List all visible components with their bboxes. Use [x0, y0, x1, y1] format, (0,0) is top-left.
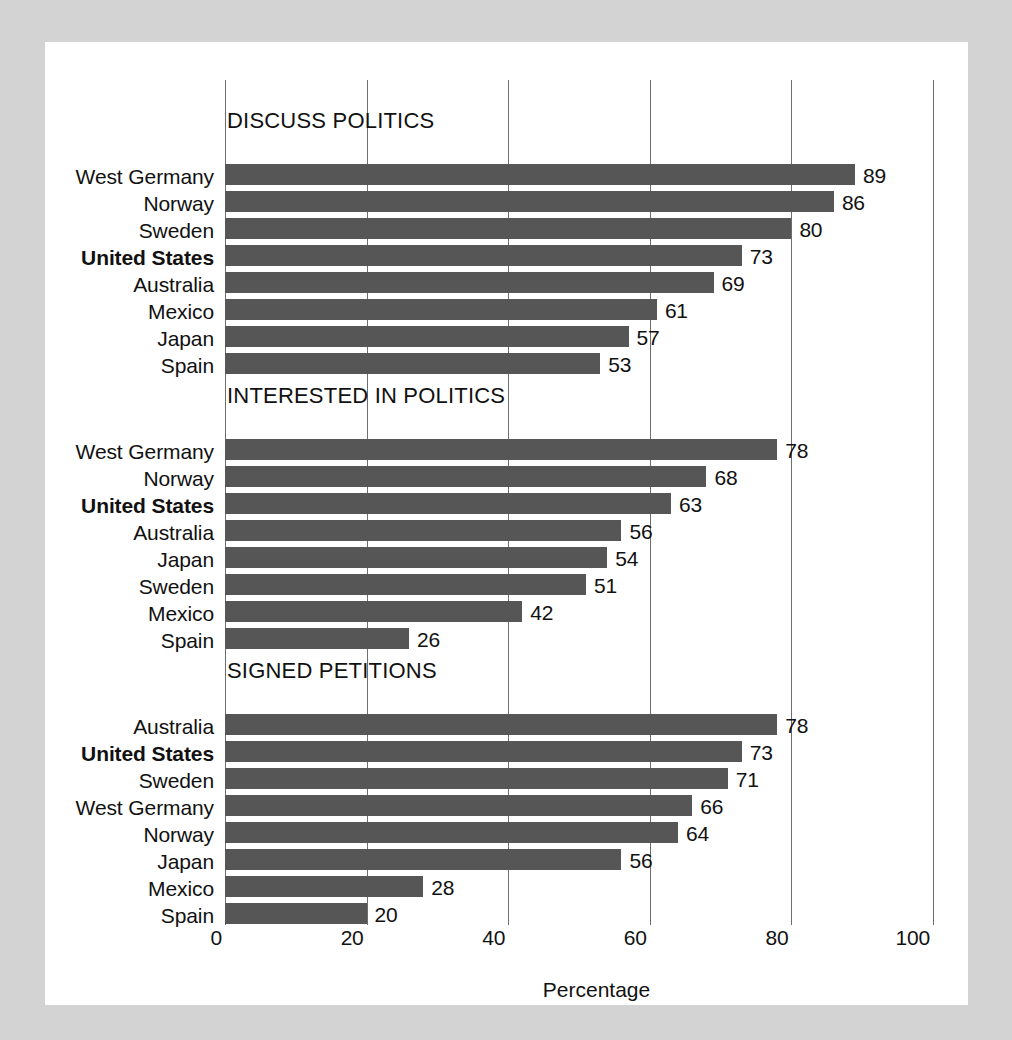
- category-label: West Germany: [45, 796, 214, 820]
- bar-value-label: 73: [750, 245, 773, 269]
- bar-value-label: 68: [714, 466, 737, 490]
- bar-row: Japan57: [45, 325, 968, 352]
- bar-row: United States73: [45, 740, 968, 767]
- bar: [225, 493, 671, 514]
- bar: [225, 601, 522, 622]
- bar-value-label: 66: [700, 795, 723, 819]
- x-axis-tick-label: 40: [425, 926, 505, 950]
- bar-value-label: 63: [679, 493, 702, 517]
- category-label: Australia: [45, 521, 214, 545]
- bar: [225, 768, 728, 789]
- bar: [225, 741, 742, 762]
- bar: [225, 822, 678, 843]
- bar: [225, 299, 657, 320]
- bar: [225, 466, 706, 487]
- bar-row: Mexico42: [45, 600, 968, 627]
- bar: [225, 326, 629, 347]
- chart-card: 020406080100DISCUSS POLITICSWest Germany…: [45, 42, 968, 1005]
- bar-row: Spain26: [45, 627, 968, 654]
- bar: [225, 272, 714, 293]
- bar-row: United States63: [45, 492, 968, 519]
- bar-value-label: 80: [799, 218, 822, 242]
- bar-row: Australia56: [45, 519, 968, 546]
- bar-value-label: 51: [594, 574, 617, 598]
- bar-row: United States73: [45, 244, 968, 271]
- x-axis-tick-label: 100: [850, 926, 930, 950]
- category-label: Japan: [45, 548, 214, 572]
- bar-value-label: 20: [375, 903, 398, 927]
- x-axis-title: Percentage: [45, 978, 968, 1002]
- bar-row: Spain20: [45, 902, 968, 929]
- bar-row: Australia78: [45, 713, 968, 740]
- bar-chart-plot: 020406080100DISCUSS POLITICSWest Germany…: [45, 42, 968, 1005]
- bar: [225, 876, 423, 897]
- bar-row: Norway68: [45, 465, 968, 492]
- bar-value-label: 53: [608, 353, 631, 377]
- category-label: West Germany: [45, 440, 214, 464]
- bar: [225, 547, 607, 568]
- category-label: United States: [45, 246, 214, 270]
- bar-value-label: 54: [615, 547, 638, 571]
- panel-title: DISCUSS POLITICS: [227, 108, 434, 134]
- bar: [225, 439, 777, 460]
- bar-value-label: 73: [750, 741, 773, 765]
- category-label: United States: [45, 494, 214, 518]
- category-label: Australia: [45, 273, 214, 297]
- bar-row: West Germany66: [45, 794, 968, 821]
- bar-value-label: 28: [431, 876, 454, 900]
- category-label: Mexico: [45, 602, 214, 626]
- category-label: Sweden: [45, 219, 214, 243]
- bar-value-label: 69: [722, 272, 745, 296]
- bar-value-label: 57: [637, 326, 660, 350]
- bar-row: Sweden80: [45, 217, 968, 244]
- category-label: West Germany: [45, 165, 214, 189]
- x-axis-tick-label: 0: [142, 926, 222, 950]
- bar-row: Norway64: [45, 821, 968, 848]
- bar-value-label: 56: [629, 520, 652, 544]
- bar: [225, 164, 855, 185]
- category-label: Spain: [45, 904, 214, 928]
- bar-value-label: 78: [785, 714, 808, 738]
- category-label: Australia: [45, 715, 214, 739]
- category-label: Spain: [45, 354, 214, 378]
- bar-row: Australia69: [45, 271, 968, 298]
- bar: [225, 903, 367, 924]
- bar: [225, 574, 586, 595]
- bar-value-label: 64: [686, 822, 709, 846]
- bar-row: Sweden51: [45, 573, 968, 600]
- bar-row: Japan54: [45, 546, 968, 573]
- bar: [225, 218, 791, 239]
- bar-row: Japan56: [45, 848, 968, 875]
- bar-row: Spain53: [45, 352, 968, 379]
- bar-value-label: 56: [629, 849, 652, 873]
- bar-value-label: 71: [736, 768, 759, 792]
- bar-row: West Germany89: [45, 163, 968, 190]
- category-label: Norway: [45, 823, 214, 847]
- category-label: Japan: [45, 850, 214, 874]
- panel-title: SIGNED PETITIONS: [227, 658, 437, 684]
- bar: [225, 191, 834, 212]
- bar: [225, 353, 600, 374]
- category-label: Japan: [45, 327, 214, 351]
- bar: [225, 795, 692, 816]
- bar-value-label: 89: [863, 164, 886, 188]
- bar-row: West Germany78: [45, 438, 968, 465]
- category-label: Mexico: [45, 300, 214, 324]
- category-label: Norway: [45, 467, 214, 491]
- x-axis-title-text: Percentage: [543, 978, 650, 1001]
- bar: [225, 849, 621, 870]
- bar-value-label: 86: [842, 191, 865, 215]
- bar-row: Sweden71: [45, 767, 968, 794]
- bar-row: Mexico61: [45, 298, 968, 325]
- bar-row: Mexico28: [45, 875, 968, 902]
- bar-value-label: 42: [530, 601, 553, 625]
- category-label: Sweden: [45, 575, 214, 599]
- category-label: Spain: [45, 629, 214, 653]
- bar: [225, 714, 777, 735]
- bar: [225, 245, 742, 266]
- category-label: Sweden: [45, 769, 214, 793]
- bar-value-label: 26: [417, 628, 440, 652]
- bar: [225, 520, 621, 541]
- category-label: Norway: [45, 192, 214, 216]
- x-axis-tick-label: 60: [567, 926, 647, 950]
